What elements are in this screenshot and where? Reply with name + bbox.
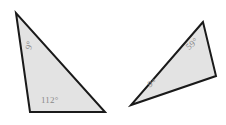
figure-canvas: 9° 112° 59° 9°	[0, 0, 226, 125]
geometry-figure: 9° 112° 59° 9°	[0, 0, 226, 125]
left-triangle-angle-112-label: 112°	[41, 95, 59, 105]
